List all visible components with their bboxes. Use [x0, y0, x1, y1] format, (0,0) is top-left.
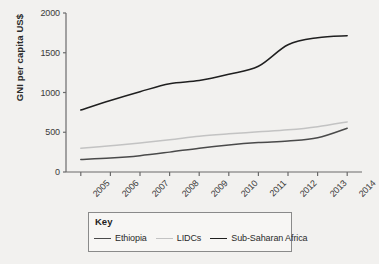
series-lines	[81, 36, 347, 160]
legend-item-ethiopia[interactable]: Ethiopia	[94, 233, 147, 243]
legend-items: EthiopiaLIDCsSub-Saharan Africa	[94, 233, 287, 243]
legend-item-sub-saharan-africa[interactable]: Sub-Saharan Africa	[210, 233, 307, 243]
legend-title: Key	[95, 216, 112, 227]
series-line-lidcs	[81, 122, 347, 148]
series-line-ethiopia	[81, 128, 347, 159]
legend-line-swatch	[210, 238, 227, 239]
legend-item-lidcs[interactable]: LIDCs	[156, 233, 202, 243]
legend-label: Sub-Saharan Africa	[231, 233, 307, 243]
legend-line-swatch	[94, 238, 111, 239]
x-axis-ticks	[81, 172, 347, 176]
legend-line-swatch	[156, 238, 173, 239]
gni-per-capita-line-chart: GNI per capita US$ 2000 1500 1000 500 0 …	[0, 0, 379, 264]
legend-label: Ethiopia	[115, 233, 147, 243]
series-line-sub-saharan-africa	[81, 36, 347, 110]
legend: Key EthiopiaLIDCsSub-Saharan Africa	[88, 212, 292, 252]
legend-label: LIDCs	[177, 233, 202, 243]
